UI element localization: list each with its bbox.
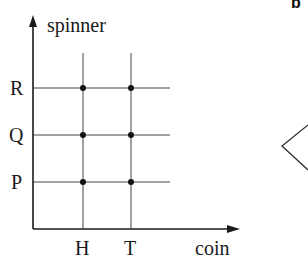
y-tick-q: Q — [9, 124, 24, 146]
panel-label: b — [291, 0, 301, 11]
vertical-grid-lines — [83, 53, 131, 229]
point-h-p — [80, 179, 86, 185]
point-t-r — [128, 85, 134, 91]
x-axis — [33, 225, 240, 233]
x-tick-t: T — [124, 237, 136, 259]
point-t-p — [128, 179, 134, 185]
y-tick-r: R — [10, 77, 24, 99]
sample-space-diagram: spinner coin R Q P H T b — [0, 0, 308, 261]
horizontal-grid-lines — [33, 88, 170, 182]
y-axis-arrow-icon — [29, 15, 37, 27]
y-axis-title: spinner — [47, 14, 106, 37]
partial-chevron-shape — [282, 125, 308, 170]
x-axis-arrow-icon — [227, 225, 240, 233]
y-axis — [29, 15, 37, 229]
x-tick-h: H — [75, 237, 89, 259]
point-t-q — [128, 132, 134, 138]
point-h-r — [80, 85, 86, 91]
point-h-q — [80, 132, 86, 138]
y-tick-p: P — [11, 171, 22, 193]
x-axis-title: coin — [195, 237, 229, 259]
